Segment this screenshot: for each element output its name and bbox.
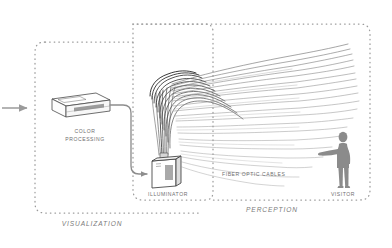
visitor-foot-right [345, 186, 350, 188]
color-processing-label-line2: PROCESSING [65, 136, 104, 142]
illuminator-label: ILLUMINATOR [148, 191, 188, 197]
connector-cable [110, 105, 147, 174]
zone-visualization-border [35, 42, 200, 213]
fiber-dense-arc [150, 71, 243, 148]
visitor-label: VISITOR [331, 191, 355, 197]
cable-path [110, 105, 147, 174]
zone-visualization: VISUALIZATION [35, 42, 200, 227]
fiber-strands-upper [172, 44, 356, 101]
isometric-box-icon [52, 93, 110, 117]
visitor-head [339, 132, 348, 142]
visitor-node: VISITOR [318, 132, 355, 197]
visitor-foot-left [337, 186, 343, 188]
visitor-arm-extended [318, 149, 339, 156]
visitor-leg-left [338, 168, 343, 186]
diagram-canvas: VISUALIZATION PERCEPTION COLOR PROCESSIN… [0, 0, 392, 248]
color-processing-label-line1: COLOR [75, 128, 96, 134]
illuminator-panel [165, 165, 173, 180]
illuminator-side-face [176, 156, 181, 186]
person-silhouette-icon [318, 132, 350, 188]
visitor-leg-right [344, 168, 349, 186]
zone-visualization-label: VISUALIZATION [62, 220, 123, 227]
zone-perception-label: PERCEPTION [246, 206, 298, 213]
color-processing-node: COLOR PROCESSING [52, 93, 110, 142]
system-diagram: VISUALIZATION PERCEPTION COLOR PROCESSIN… [0, 0, 392, 248]
illuminator-device-icon [152, 153, 181, 188]
fiber-optic-cables-label: FIBER OPTIC CABLES [222, 171, 285, 177]
fiber-bundle-stem [152, 87, 175, 156]
illuminator-node: ILLUMINATOR [148, 153, 188, 197]
fiber-strands-lower [180, 145, 332, 186]
